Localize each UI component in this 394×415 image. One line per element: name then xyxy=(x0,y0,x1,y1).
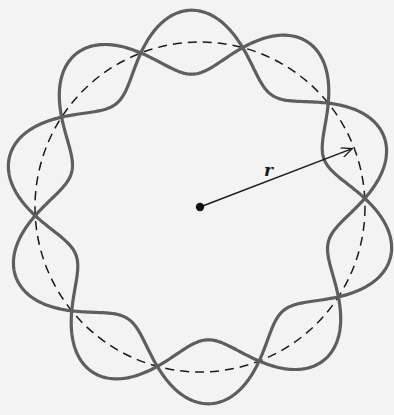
radius-arrow xyxy=(200,149,352,207)
radius-label: r xyxy=(264,160,273,180)
standing-wave-diagram: r xyxy=(0,0,394,415)
center-point xyxy=(196,203,204,211)
diagram-canvas xyxy=(0,0,394,415)
